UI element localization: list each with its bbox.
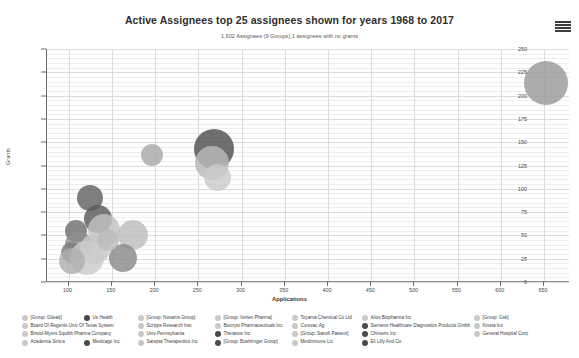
bubble-point[interactable] [141,144,163,166]
legend-item[interactable]: Curevac Ag [292,323,324,329]
legend-swatch-icon [292,331,298,337]
legend-swatch-icon [362,323,368,329]
x-axis-tick-label: 500 [409,287,418,293]
legend-swatch-icon [362,315,368,321]
hamburger-menu-icon[interactable] [555,20,571,33]
y-axis-tick-mark [41,165,46,166]
gridline-horizontal [47,282,569,283]
legend-item[interactable]: [Group: Vertex Pharma] [215,315,272,321]
gridline-horizontal [47,175,569,176]
menu-bar-1 [555,21,571,23]
y-axis-tick-mark [41,282,46,283]
legend-swatch-icon [362,331,368,337]
legend-swatch-icon [22,331,28,337]
x-axis-tick-mark [111,282,112,286]
legend-item[interactable]: Biocryst Pharmaceuticals Inc [215,323,282,329]
gridline-vertical [414,49,415,281]
x-axis-tick-label: 550 [452,287,461,293]
legend-item[interactable]: Alios Biopharma Inc [362,315,411,321]
x-axis-tick-mark [154,282,155,286]
gridline-horizontal [47,156,569,157]
legend-item[interactable]: Us Health [84,315,113,321]
x-axis-tick-label: 300 [236,287,245,293]
legend-swatch-icon [474,315,480,321]
x-axis-tick-mark [241,282,242,286]
x-axis-tick-label: 400 [322,287,331,293]
legend: [Group: Gilead]Board Of Regents Univ Of … [22,315,567,355]
legend-item[interactable]: [Group: Gilead] [22,315,62,321]
legend-item-label: Curevac Ag [301,324,325,329]
y-axis-tick-label: 175 [505,116,527,122]
legend-item[interactable]: Toyama Chemical Co Ltd [292,315,352,321]
gridline-horizontal [47,68,569,69]
legend-item[interactable]: [Group: Gsk] [474,315,509,321]
legend-item[interactable]: [Group: Boehringer Group] [215,340,278,346]
y-axis-tick-label: 200 [505,93,527,99]
gridline-vertical [371,49,372,281]
y-axis-tick-mark [41,212,46,213]
legend-item-label: Siemens Healthcare Diagnostics Products … [371,324,471,329]
legend-item-label: [Group: Sanofi Pasteur] [301,332,349,337]
legend-item[interactable]: Sarepta Therapeutics Inc [138,340,198,346]
y-axis-tick-label: 125 [505,163,527,169]
legend-item[interactable]: General Hospital Corp [474,331,528,337]
gridline-horizontal [47,119,569,120]
gridline-horizontal [47,273,569,274]
gridline-horizontal [47,212,569,213]
legend-item[interactable]: Medicago Inc [84,340,120,346]
gridline-horizontal [47,277,569,278]
y-axis-tick-label: 0 [505,279,527,285]
x-axis-tick-mark [327,282,328,286]
legend-item-label: Biocryst Pharmaceuticals Inc [224,324,283,329]
legend-item[interactable]: Scripps Research Inst [138,323,191,329]
legend-item[interactable]: Siemens Healthcare Diagnostics Products … [362,323,470,329]
gridline-horizontal [47,193,569,194]
y-axis-tick-mark [41,118,46,119]
legend-item[interactable]: Academia Sinica [22,340,65,346]
x-axis-title: Applications [0,296,579,302]
x-axis-tick-label: 650 [539,287,548,293]
legend-item[interactable]: Chimerix Inc [362,331,396,337]
legend-item[interactable]: Univ Pennsylvania [138,331,184,337]
gridline-horizontal [47,49,569,50]
legend-item[interactable]: Board Of Regents Univ Of Texas System [22,323,114,329]
legend-item[interactable]: Bristol-Myers Squibb Pharma Company [22,331,111,337]
bubble-point[interactable] [204,164,231,191]
legend-item-label: [Group: Vertex Pharma] [224,316,272,321]
legend-item[interactable]: Eli Lilly And Co [362,340,401,346]
legend-swatch-icon [22,323,28,329]
bubble-point[interactable] [524,61,568,105]
gridline-horizontal [47,184,569,185]
menu-bar-2 [555,24,571,26]
y-axis-tick-label: 250 [505,46,527,52]
legend-item[interactable]: Medimmune Llc [292,340,333,346]
gridline-horizontal [47,161,569,162]
plot-area[interactable] [46,49,569,282]
x-axis-tick-mark [370,282,371,286]
legend-item[interactable]: Kineta Inc [474,323,503,329]
bubble-point[interactable] [97,229,119,251]
gridline-horizontal [47,198,569,199]
x-axis-tick-mark [284,282,285,286]
gridline-horizontal [47,124,569,125]
y-axis-title: Grants [5,148,11,165]
y-axis-tick-mark [41,72,46,73]
legend-item[interactable]: [Group: Sanofi Pasteur] [292,331,349,337]
gridline-horizontal [47,203,569,204]
gridline-horizontal [47,110,569,111]
legend-swatch-icon [474,323,480,329]
y-axis-tick-label: 50 [505,232,527,238]
x-axis-tick-mark [543,282,544,286]
x-axis-tick-mark [500,282,501,286]
gridline-horizontal [47,86,569,87]
legend-item-label: [Group: Gilead] [31,316,62,321]
legend-item[interactable]: [Group: Novartis Group] [138,315,195,321]
legend-item[interactable]: Theranos Inc [215,331,250,337]
x-axis-tick-label: 250 [193,287,202,293]
gridline-horizontal [47,147,569,148]
y-axis-tick-label: 25 [505,256,527,262]
gridline-horizontal [47,105,569,106]
x-axis-tick-mark [413,282,414,286]
legend-item-label: Medimmune Llc [301,340,333,345]
menu-bar-3 [555,27,571,29]
